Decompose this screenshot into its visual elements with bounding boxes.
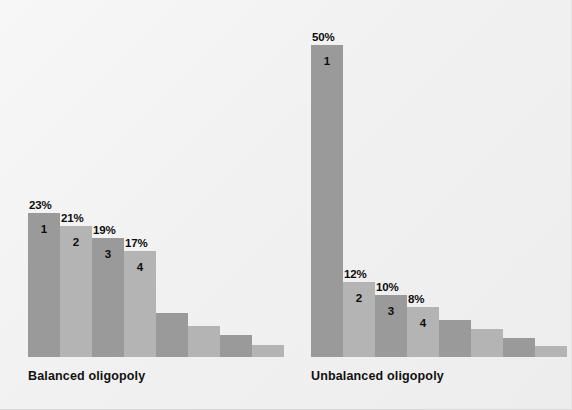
bar-value-label: 12% bbox=[344, 268, 366, 280]
bar-slot bbox=[252, 45, 284, 357]
bar-industry-b-5 bbox=[439, 320, 471, 357]
bar-industry-a-6 bbox=[188, 326, 220, 357]
bar-value-label: 8% bbox=[408, 293, 424, 305]
bar-slot: 10%3 bbox=[375, 45, 407, 357]
bar-value-label: 50% bbox=[312, 31, 334, 43]
bar-industry-b-4 bbox=[407, 307, 439, 357]
bar-series-industry-a: 23%121%219%317%4 bbox=[28, 45, 284, 357]
bar-rank-label: 2 bbox=[60, 236, 92, 248]
bar-slot bbox=[220, 45, 252, 357]
bar-value-label: 17% bbox=[125, 237, 147, 249]
bar-slot bbox=[471, 45, 503, 357]
bar-slot: 21%2 bbox=[60, 45, 92, 357]
bar-value-label: 23% bbox=[29, 199, 51, 211]
bar-value-label: 10% bbox=[376, 281, 398, 293]
bar-rank-label: 4 bbox=[407, 317, 439, 329]
bar-industry-b-6 bbox=[471, 329, 503, 357]
bar-rank-label: 3 bbox=[375, 305, 407, 317]
bar-slot: 19%3 bbox=[92, 45, 124, 357]
bar-rank-label: 4 bbox=[124, 261, 156, 273]
bar-industry-b-7 bbox=[503, 338, 535, 357]
bar-slot: 12%2 bbox=[343, 45, 375, 357]
bar-slot bbox=[156, 45, 188, 357]
bar-slot bbox=[188, 45, 220, 357]
bar-value-label: 19% bbox=[93, 224, 115, 236]
bar-slot bbox=[503, 45, 535, 357]
bar-rank-label: 1 bbox=[311, 55, 343, 67]
bar-slot: 50%1 bbox=[311, 45, 343, 357]
bar-industry-a-5 bbox=[156, 313, 188, 357]
bar-industry-a-8 bbox=[252, 345, 284, 357]
bar-rank-label: 1 bbox=[28, 223, 60, 235]
bar-slot: 8%4 bbox=[407, 45, 439, 357]
bar-series-industry-b: 50%112%210%38%4 bbox=[311, 45, 567, 357]
bar-slot bbox=[439, 45, 471, 357]
bar-industry-b-8 bbox=[535, 346, 567, 357]
bar-industry-b-1 bbox=[311, 45, 343, 357]
bar-slot bbox=[535, 45, 567, 357]
bar-slot: 23%1 bbox=[28, 45, 60, 357]
chart-figure: Industry A 23%121%219%317%4 Balanced oli… bbox=[0, 0, 572, 410]
bar-rank-label: 3 bbox=[92, 248, 124, 260]
bar-industry-a-7 bbox=[220, 335, 252, 357]
bar-value-label: 21% bbox=[61, 212, 83, 224]
bar-slot: 17%4 bbox=[124, 45, 156, 357]
bar-rank-label: 2 bbox=[343, 292, 375, 304]
